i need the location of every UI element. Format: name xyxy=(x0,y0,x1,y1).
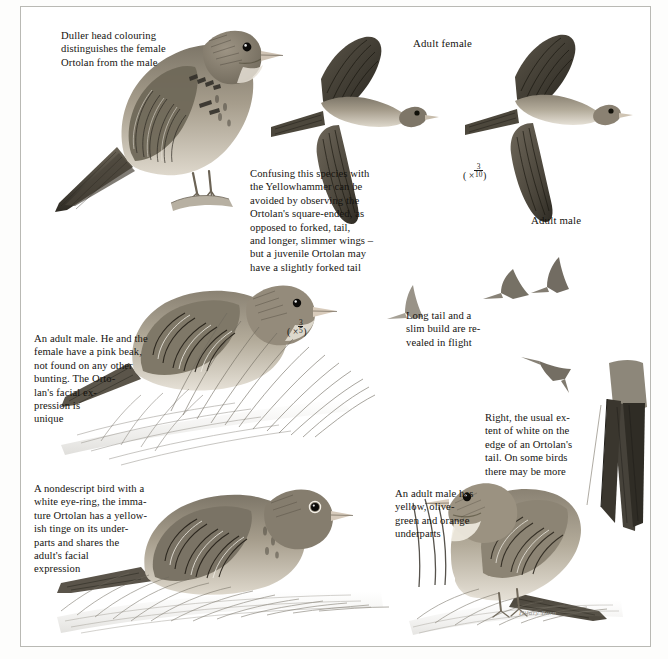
scale-suffix: ) xyxy=(303,326,306,337)
scale-prefix: ( × xyxy=(287,326,298,337)
figure-flight-silhouette-middle xyxy=(483,269,529,299)
scale-perched-bird: ( ×35) xyxy=(287,319,307,337)
caption-tail-white-extent: Right, the usual ex- tent of white on th… xyxy=(485,411,597,478)
artist-signature: Hilary Burn xyxy=(519,609,556,617)
scale-prefix: ( × xyxy=(463,170,474,181)
caption-adult-male-underparts: An adult male has yellow, olive- green a… xyxy=(395,487,505,541)
figure-adult-male-in-flight xyxy=(465,35,633,222)
label-adult-male: Adult male xyxy=(531,214,581,226)
plate-frame: Duller head colouring distinguishes the … xyxy=(20,6,651,647)
figure-flight-silhouette-lower xyxy=(521,357,571,393)
scale-denominator: 10 xyxy=(474,171,482,178)
scale-suffix: ) xyxy=(483,170,486,181)
figure-flight-silhouette-upper xyxy=(531,257,569,293)
caption-yellowhammer-confusion: Confusing this species with the Yellowha… xyxy=(250,167,426,274)
scale-flight-birds: ( ×310) xyxy=(463,163,486,181)
caption-long-tail-slim-build: Long tail and a slim build are re- veale… xyxy=(406,309,516,349)
illustration-plate: Duller head colouring distinguishes the … xyxy=(0,0,668,659)
caption-female-head-colouring: Duller head colouring distinguishes the … xyxy=(61,29,231,69)
label-adult-female: Adult female xyxy=(413,37,472,49)
caption-immature-nondescript: A nondescript bird with a white eye-ring… xyxy=(34,482,184,576)
caption-adult-male-pink-beak: An adult male. He and the female have a … xyxy=(34,332,182,426)
